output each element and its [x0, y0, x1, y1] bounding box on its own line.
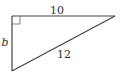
triangle: [12, 16, 115, 71]
hypotenuse: [12, 16, 115, 71]
right-angle-marker-icon: [12, 16, 20, 24]
top-side-label: 10: [50, 4, 64, 17]
right-triangle-diagram: 10 b 12: [0, 0, 124, 81]
hypotenuse-label: 12: [57, 48, 71, 61]
left-side-label: b: [1, 36, 8, 49]
